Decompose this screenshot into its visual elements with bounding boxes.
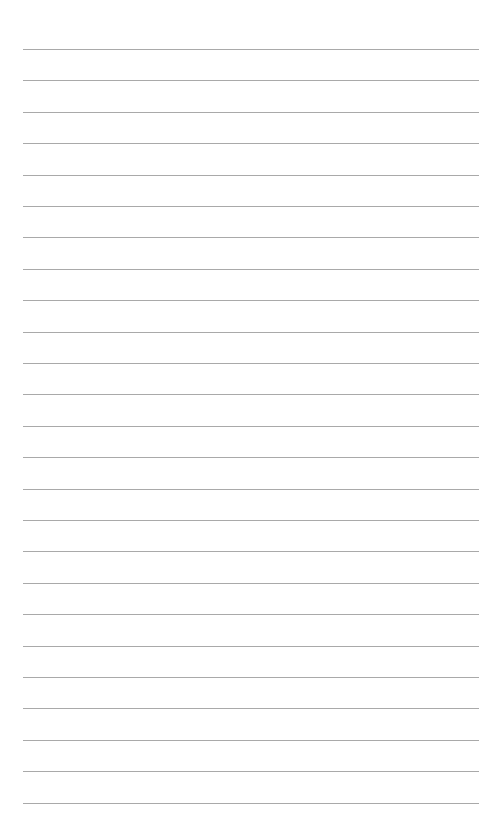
ruled-line bbox=[23, 426, 479, 427]
ruled-line bbox=[23, 206, 479, 207]
ruled-line bbox=[23, 143, 479, 144]
lined-paper-page bbox=[0, 0, 499, 830]
ruled-line bbox=[23, 49, 479, 50]
ruled-line bbox=[23, 80, 479, 81]
ruled-line bbox=[23, 269, 479, 270]
ruled-line bbox=[23, 771, 479, 772]
ruled-line bbox=[23, 803, 479, 804]
ruled-line bbox=[23, 583, 479, 584]
ruled-line bbox=[23, 489, 479, 490]
ruled-line bbox=[23, 394, 479, 395]
ruled-line bbox=[23, 708, 479, 709]
ruled-line bbox=[23, 677, 479, 678]
ruled-line bbox=[23, 740, 479, 741]
ruled-line bbox=[23, 363, 479, 364]
ruled-line bbox=[23, 300, 479, 301]
ruled-line bbox=[23, 175, 479, 176]
ruled-line bbox=[23, 646, 479, 647]
ruled-line bbox=[23, 551, 479, 552]
ruled-line bbox=[23, 332, 479, 333]
ruled-line bbox=[23, 237, 479, 238]
ruled-line bbox=[23, 520, 479, 521]
ruled-line bbox=[23, 457, 479, 458]
ruled-line bbox=[23, 112, 479, 113]
ruled-line bbox=[23, 614, 479, 615]
